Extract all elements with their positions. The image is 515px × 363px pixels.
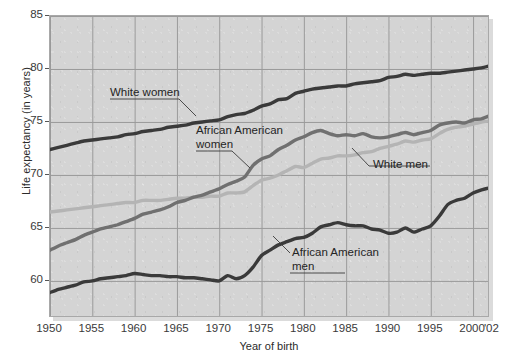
y-tick-mark bbox=[45, 121, 49, 122]
y-tick-mark bbox=[45, 280, 49, 281]
y-axis-title: Life expectancy (in years) bbox=[20, 61, 32, 201]
x-tick-1960: 1960 bbox=[111, 322, 157, 334]
x-tick-1955: 1955 bbox=[68, 322, 114, 334]
x-tick-1990: 1990 bbox=[364, 322, 410, 334]
x-tick-1965: 1965 bbox=[153, 322, 199, 334]
x-tick-1985: 1985 bbox=[322, 322, 368, 334]
y-tick-65: 65 bbox=[13, 220, 43, 232]
annotation-african-american-men-line1: African American bbox=[292, 246, 379, 260]
x-tick-1950: 1950 bbox=[26, 322, 72, 334]
x-axis-title: Year of birth bbox=[49, 340, 489, 352]
annotation-white-women: White women bbox=[110, 86, 180, 100]
y-tick-85: 85 bbox=[13, 8, 43, 20]
annotation-african-american-men-line2: men bbox=[292, 260, 314, 274]
annotation-leader-lines bbox=[0, 0, 515, 363]
y-tick-mark bbox=[45, 174, 49, 175]
y-tick-mark bbox=[45, 227, 49, 228]
annotation-african-american-women-line2: women bbox=[196, 138, 233, 152]
annotation-white-men: White men bbox=[373, 158, 428, 172]
x-tick-1975: 1975 bbox=[238, 322, 284, 334]
x-tick-1970: 1970 bbox=[195, 322, 241, 334]
annotation-african-american-women-line1: African American bbox=[196, 124, 283, 138]
y-tick-mark bbox=[45, 68, 49, 69]
x-tick-1980: 1980 bbox=[280, 322, 326, 334]
y-tick-60: 60 bbox=[13, 273, 43, 285]
life-expectancy-chart: 606570758085 195019551960196519701975198… bbox=[0, 0, 515, 363]
y-tick-mark bbox=[45, 15, 49, 16]
x-tick-1995: 1995 bbox=[407, 322, 453, 334]
x-tick-2002: '02 bbox=[484, 322, 499, 334]
